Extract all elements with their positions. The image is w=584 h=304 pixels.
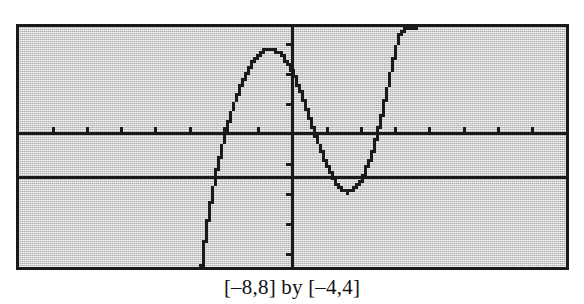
horizontal-reference-line [19,176,566,179]
plot-canvas [19,27,566,267]
viewing-window-caption: [–8,8] by [–4,4] [0,272,584,302]
graphing-calculator-screen [16,24,569,270]
calculator-figure: [–8,8] by [–4,4] [0,0,584,304]
plotted-curve [199,27,418,267]
y-axis-ticks [286,43,291,256]
